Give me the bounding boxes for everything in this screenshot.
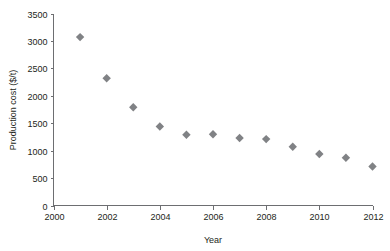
data-point (289, 143, 297, 151)
x-tick-label: 2006 (203, 212, 223, 222)
data-point (342, 154, 350, 162)
scatter-plot: 0500100015002000250030003500 20002002200… (0, 0, 390, 251)
data-point (262, 135, 270, 143)
x-axis-tick-labels: 2000200220042006200820102012 (44, 212, 383, 222)
x-axis-ticks (55, 206, 374, 210)
x-tick-label: 2002 (97, 212, 117, 222)
y-tick-label: 1500 (27, 119, 47, 129)
y-tick-label: 2000 (27, 92, 47, 102)
data-point (368, 162, 376, 170)
x-tick-label: 2004 (150, 212, 170, 222)
data-point (129, 103, 137, 111)
x-tick-label: 2008 (256, 212, 276, 222)
y-tick-label: 3000 (27, 37, 47, 47)
y-tick-label: 3500 (27, 10, 47, 20)
data-point (235, 134, 243, 142)
data-point (209, 130, 217, 138)
x-axis-title: Year (204, 235, 222, 245)
y-tick-label: 0 (42, 202, 47, 212)
y-axis-tick-labels: 0500100015002000250030003500 (27, 10, 47, 212)
y-tick-label: 2500 (27, 64, 47, 74)
data-point (315, 150, 323, 158)
data-point (182, 131, 190, 139)
chart-container: 0500100015002000250030003500 20002002200… (0, 0, 390, 251)
data-point (156, 122, 164, 130)
x-tick-label: 2010 (309, 212, 329, 222)
y-tick-label: 500 (32, 174, 47, 184)
y-tick-label: 1000 (27, 147, 47, 157)
y-axis-title: Production cost ($/t) (8, 70, 18, 151)
data-point (102, 74, 110, 82)
data-point (76, 33, 84, 41)
data-point-markers (76, 33, 377, 171)
x-tick-label: 2012 (363, 212, 383, 222)
x-tick-label: 2000 (44, 212, 64, 222)
